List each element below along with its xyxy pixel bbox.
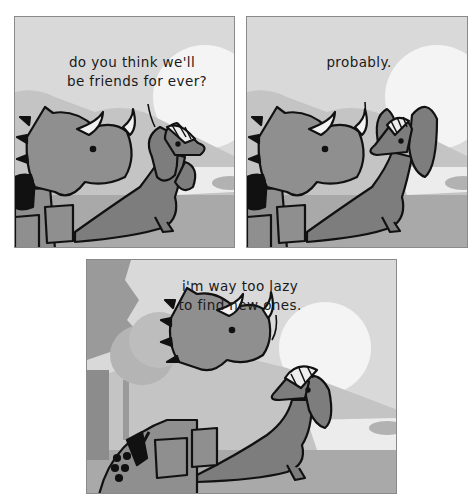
speech-text: i'm way too lazy to find new ones. [175,277,305,315]
speech-text: do you think we'll be friends for ever? [67,53,197,91]
speech-line: i'm way too lazy [175,277,305,296]
comic-panel-2: probably. [246,16,468,248]
speech-text: probably. [319,53,399,72]
speech-line: probably. [319,53,399,72]
panel-1-illustration [15,17,235,248]
comic-panel-1: do you think we'll be friends for ever? [14,16,235,248]
speech-line: do you think we'll [67,53,197,72]
comic-panel-3: i'm way too lazy to find new ones. [86,259,397,494]
speech-line: to find new ones. [175,296,305,315]
panel-2-illustration [247,17,468,248]
speech-line: be friends for ever? [67,72,197,91]
